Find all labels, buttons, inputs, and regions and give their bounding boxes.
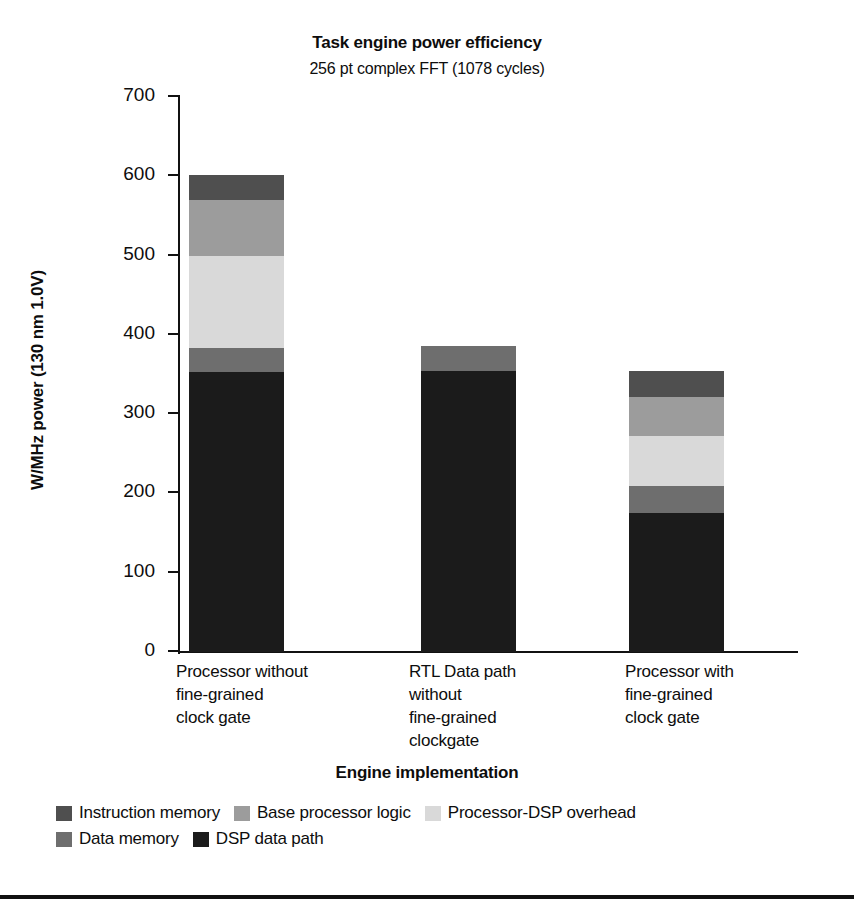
legend-label: Processor-DSP overhead	[448, 803, 636, 823]
x-axis-category-label: RTL Data path without fine-grained clock…	[409, 660, 516, 752]
x-axis-category-label: Processor without fine-grained clock gat…	[176, 660, 308, 729]
legend-item: Base processor logic	[234, 803, 411, 823]
bar-segment	[629, 486, 724, 514]
legend-swatch-icon	[56, 832, 72, 847]
bar-segment	[189, 372, 284, 652]
x-axis-title: Engine implementation	[0, 763, 854, 783]
legend-item: DSP data path	[193, 829, 324, 849]
bar-segment	[189, 200, 284, 256]
legend-row: Data memoryDSP data path	[56, 826, 816, 852]
bar-segment	[629, 513, 724, 652]
bar-stack	[189, 175, 284, 652]
page-edge-artifact	[40, 0, 340, 6]
y-axis-tick-label: 700	[95, 84, 155, 106]
legend-swatch-icon	[56, 806, 72, 821]
y-axis-tick-label: 500	[95, 243, 155, 265]
y-axis-title: W/MHz power (130 nm 1.0V)	[28, 170, 48, 590]
y-axis-tick-label: 200	[95, 480, 155, 502]
bar-segment	[189, 348, 284, 373]
legend-item: Instruction memory	[56, 803, 220, 823]
bottom-divider-rule	[0, 895, 854, 899]
y-axis-tick-label: 600	[95, 163, 155, 185]
bar-segment	[189, 256, 284, 348]
legend-label: Instruction memory	[79, 803, 220, 823]
legend-swatch-icon	[234, 806, 250, 821]
bar-stack	[421, 346, 516, 652]
y-axis-tick-label: 0	[95, 639, 155, 661]
legend-item: Processor-DSP overhead	[425, 803, 636, 823]
legend-label: Base processor logic	[257, 803, 411, 823]
legend-swatch-icon	[193, 832, 209, 847]
y-axis-tick-label: 300	[95, 401, 155, 423]
y-axis-tick-label: 100	[95, 560, 155, 582]
legend-label: DSP data path	[216, 829, 324, 849]
legend-label: Data memory	[79, 829, 179, 849]
bar-segment	[421, 371, 516, 652]
bar-segment	[629, 371, 724, 397]
bar-segment	[421, 346, 516, 371]
legend-item: Data memory	[56, 829, 179, 849]
chart-legend: Instruction memoryBase processor logicPr…	[56, 800, 816, 852]
bar-segment	[629, 436, 724, 485]
legend-row: Instruction memoryBase processor logicPr…	[56, 800, 816, 826]
chart-title: Task engine power efficiency	[0, 33, 854, 53]
y-axis-tick-label: 400	[95, 322, 155, 344]
bar-segment	[189, 175, 284, 200]
bar-segment	[629, 397, 724, 437]
bar-stack	[629, 371, 724, 652]
plot-area	[178, 97, 798, 652]
x-axis-category-label: Processor with fine-grained clock gate	[625, 660, 734, 729]
chart-subtitle: 256 pt complex FFT (1078 cycles)	[0, 60, 854, 78]
legend-swatch-icon	[425, 806, 441, 821]
